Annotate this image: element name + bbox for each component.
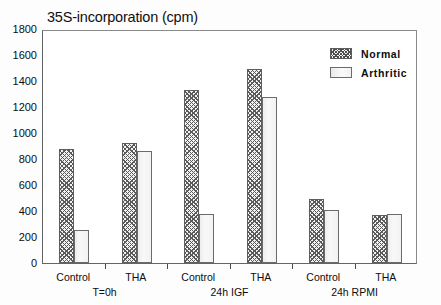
x-axis-tick-mark <box>355 264 356 269</box>
bar-arthritic <box>137 151 152 263</box>
y-axis-tick-label: 200 <box>0 231 42 245</box>
y-axis-tick-label: 1600 <box>0 49 42 63</box>
bar-normal <box>309 199 324 263</box>
bar-normal <box>184 90 199 263</box>
y-axis-tick-label: 1800 <box>0 23 42 37</box>
x-axis-tick-mark <box>292 264 293 269</box>
y-axis-tick-label: 600 <box>0 179 42 193</box>
y-axis-tick-label: 1000 <box>0 127 42 141</box>
x-axis-group-label: T=0h <box>45 286 165 298</box>
y-axis-tick-label: 0 <box>0 257 42 271</box>
chart-figure: 35S-incorporation (cpm) 1800160014001200… <box>0 0 441 305</box>
y-axis-tick-label: 800 <box>0 153 42 167</box>
bar-arthritic <box>199 214 214 263</box>
bar-arthritic <box>387 214 402 263</box>
bar-normal <box>122 143 137 263</box>
y-axis-tick-label: 400 <box>0 205 42 219</box>
legend-item-arthritic: Arthritic <box>330 64 407 81</box>
chart-legend: Normal Arthritic <box>330 45 407 83</box>
x-axis-tick-mark <box>230 264 231 269</box>
bar-arthritic <box>324 210 339 263</box>
bar-arthritic <box>74 230 89 263</box>
x-axis-group-label: 24h RPMI <box>295 286 415 298</box>
y-axis-tick-label: 1400 <box>0 75 42 89</box>
x-axis-label: THA <box>346 271 426 283</box>
legend-swatch-normal-icon <box>330 48 352 59</box>
x-axis-tick-mark <box>167 264 168 269</box>
bar-arthritic <box>262 97 277 263</box>
legend-swatch-arthritic-icon <box>330 67 352 78</box>
bar-normal <box>372 215 387 263</box>
y-axis-tick-label: 1200 <box>0 101 42 115</box>
legend-item-normal: Normal <box>330 45 407 62</box>
legend-label-normal: Normal <box>361 48 401 60</box>
x-axis-tick-mark <box>105 264 106 269</box>
chart-title: 35S-incorporation (cpm) <box>47 9 198 25</box>
bar-normal <box>59 149 74 263</box>
bar-normal <box>247 69 262 263</box>
x-axis-group-label: 24h IGF <box>170 286 290 298</box>
legend-label-arthritic: Arthritic <box>361 67 407 79</box>
